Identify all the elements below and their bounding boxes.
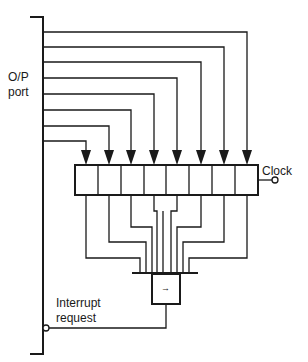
port-line-5 [43,94,154,152]
interrupt-label-line2: request [56,311,96,325]
port-line-2 [43,47,224,152]
arrow-icon [104,150,114,165]
port-label-line2: port [8,85,29,99]
interrupt-terminal [43,325,49,331]
arrow-icon [219,150,229,165]
arrow-icon [126,150,136,165]
interrupt-register-diagram: O/P port Clock Interrupt request → [0,0,308,362]
port-line-6 [43,110,131,152]
arrowheads [81,150,252,165]
arrow-icon [149,150,159,165]
arrow-icon [196,150,206,165]
arrow-icon [242,150,252,165]
port-line-1 [43,32,247,152]
register-cells [98,165,235,195]
interrupt-label-line1: Interrupt [56,296,101,310]
port-line-7 [43,126,109,152]
port-bus [30,17,43,354]
gate-symbol: → [161,283,170,293]
register-outputs [86,195,247,273]
port-line-8 [43,141,86,152]
clock-label: Clock [262,164,292,178]
arrow-icon [81,150,91,165]
port-label-line1: O/P [8,70,29,84]
arrow-icon [172,150,182,165]
circuit-svg [0,0,308,362]
